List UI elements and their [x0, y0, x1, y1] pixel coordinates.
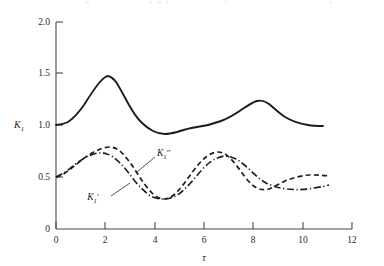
- x-axis-title: τ: [202, 252, 206, 263]
- annotation-leader-k1-double-prime: [137, 157, 155, 172]
- annotation-leader-k1-prime: [111, 183, 130, 196]
- y-tick-label-0: 0: [45, 224, 50, 234]
- x-tick-label-0: 0: [54, 235, 59, 245]
- y-tick-label-2-0: 2.0: [38, 17, 50, 27]
- x-tick-label-4: 4: [153, 235, 158, 245]
- x-tick-label-6: 6: [202, 235, 207, 245]
- line-chart: 2.0 1.5 1.0 0.5 0 0 2 4 6 8 10 12 K1 τ: [0, 0, 384, 266]
- annotation-label-k1-double-prime: K1″: [156, 148, 171, 160]
- annotation-k1-prime: K1′: [86, 183, 130, 204]
- x-tick-label-10: 10: [298, 235, 308, 245]
- y-tick-label-1-5: 1.5: [38, 68, 50, 78]
- annotation-label-k1-prime: K1′: [86, 192, 99, 204]
- y-axis-title-subscript: 1: [21, 125, 24, 132]
- y-tick-labels: 2.0 1.5 1.0 0.5 0: [38, 17, 50, 234]
- y-axis-title: K1: [13, 119, 24, 132]
- page-text-remnant: [86, 1, 332, 4]
- y-tick-marks: [56, 22, 63, 177]
- x-tick-labels: 0 2 4 6 8 10 12: [54, 235, 357, 245]
- series-line-k1: [56, 76, 323, 134]
- y-tick-label-1-0: 1.0: [38, 120, 50, 130]
- figure-container: 2.0 1.5 1.0 0.5 0 0 2 4 6 8 10 12 K1 τ: [0, 0, 384, 266]
- y-tick-label-0-5: 0.5: [38, 172, 50, 182]
- x-tick-marks: [56, 222, 352, 229]
- annotation-k1-double-prime: K1″: [137, 148, 171, 172]
- x-tick-label-12: 12: [347, 235, 357, 245]
- x-tick-label-2: 2: [103, 235, 108, 245]
- x-tick-label-8: 8: [251, 235, 256, 245]
